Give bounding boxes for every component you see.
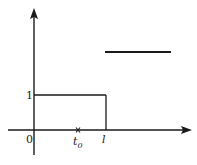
t0-label: t0 xyxy=(73,135,83,150)
y-tick-label-1: 1 xyxy=(26,89,33,102)
l-label: l xyxy=(102,133,106,146)
step-function-diagram: 1 0 t0 l xyxy=(0,0,197,165)
t0-label-subscript: 0 xyxy=(77,141,82,150)
diagram-canvas: 1 0 t0 l xyxy=(0,0,197,165)
origin-label: 0 xyxy=(26,133,33,146)
